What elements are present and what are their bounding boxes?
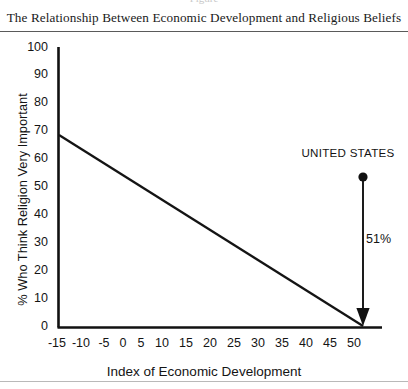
united-states-marker [358, 172, 367, 181]
chart-figure: 100 90 80 70 60 50 40 30 20 10 0 -15 -10… [0, 32, 408, 380]
united-states-label: UNITED STATES [288, 146, 408, 159]
y-tick-label: 100 [14, 41, 48, 53]
x-axis-label: Index of Economic Development [0, 364, 408, 379]
y-tick-label: 0 [14, 320, 48, 332]
y-tick-label: 90 [14, 68, 48, 80]
chart-canvas [0, 32, 408, 380]
x-tick-label: 50 [340, 337, 368, 349]
page-title: The Relationship Between Economic Develo… [0, 10, 408, 26]
cropped-caption-text: Figure [0, 0, 408, 4]
footer-divider [0, 381, 408, 382]
gap-value-label: 51% [366, 232, 391, 246]
trend-line [59, 135, 363, 326]
figure-page: Figure The Relationship Between Economic… [0, 0, 408, 389]
y-axis-label: % Who Think Religion Very Important [15, 90, 30, 310]
